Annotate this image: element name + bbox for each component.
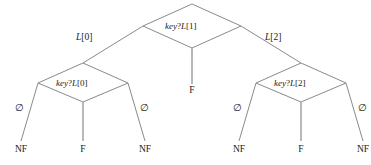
edge-label-right: L[2] (265, 33, 281, 43)
decision-tree-diagram: key?L[1] key?L[0] key?L[2] L[0] L[2] ∅ ∅… (0, 0, 371, 165)
leaf-node-4: NF (227, 145, 251, 155)
right-index: [2] (295, 78, 306, 88)
leaf-node-1: NF (9, 145, 33, 155)
left-index: [0] (77, 78, 88, 88)
empty-set-icon-left-outer-right: ∅ (140, 103, 149, 113)
empty-set-icon-right-outer-right: ∅ (358, 103, 367, 113)
root-decision-label: key?L[1] (165, 22, 197, 31)
edge-label-left-index: [0] (81, 32, 92, 42)
right-decision-label: key?L[2] (274, 79, 306, 88)
left-decision-label: key?L[0] (56, 79, 88, 88)
leaf-node-5: F (291, 145, 311, 155)
edge-label-left: L[0] (76, 33, 92, 43)
edge-label-right-index: [2] (270, 32, 281, 42)
left-keyword: key (56, 78, 68, 88)
right-keyword: key (274, 78, 286, 88)
root-index: [1] (186, 21, 197, 31)
empty-set-icon-left-outer-left: ∅ (15, 103, 24, 113)
leaf-node-3: NF (133, 145, 157, 155)
leaf-node-root-middle: F (182, 86, 202, 96)
root-keyword: key (165, 21, 177, 31)
empty-set-icon-right-outer-left: ∅ (233, 103, 242, 113)
leaf-node-6: NF (351, 145, 371, 155)
leaf-node-2: F (73, 145, 93, 155)
